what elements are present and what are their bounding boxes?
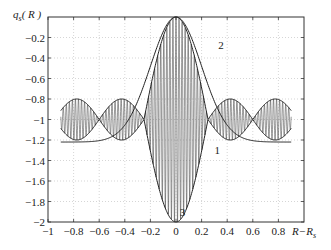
curve-label-2: 2 (218, 39, 224, 51)
y-tick-label: −0.6 (25, 73, 45, 85)
y-tick-label: −1.2 (25, 134, 45, 146)
curve-label-1: 1 (214, 144, 220, 156)
chart: −1−0.8−0.6−0.4−0.200.20.40.60.8−0.2−0.4−… (0, 0, 331, 250)
y-tick-label: −0.4 (25, 52, 45, 64)
grid (48, 17, 304, 222)
x-tick-label: −0.6 (89, 225, 109, 237)
x-tick-label: −0.2 (140, 225, 160, 237)
x-tick-label: 0.8 (272, 225, 286, 237)
x-tick-label: 0.4 (220, 225, 234, 237)
curve-label-3: 3 (180, 206, 186, 218)
y-tick-label: −1.8 (25, 196, 45, 208)
y-axis-label: qs( R ) (13, 8, 42, 23)
y-tick-label: −1.4 (25, 155, 45, 167)
x-tick-label: 0 (173, 225, 179, 237)
y-tick-label: −1 (33, 114, 45, 126)
x-axis-label: R−Rs (291, 225, 316, 240)
x-tick-label: −0.8 (64, 225, 84, 237)
x-tick-label: 0.2 (195, 225, 209, 237)
x-tick-label: −0.4 (115, 225, 135, 237)
y-tick-label: −0.8 (25, 93, 45, 105)
y-tick-label: −0.2 (25, 32, 45, 44)
y-tick-label: −2 (33, 216, 45, 228)
x-tick-label: 0.6 (246, 225, 260, 237)
y-tick-label: −1.6 (25, 175, 45, 187)
